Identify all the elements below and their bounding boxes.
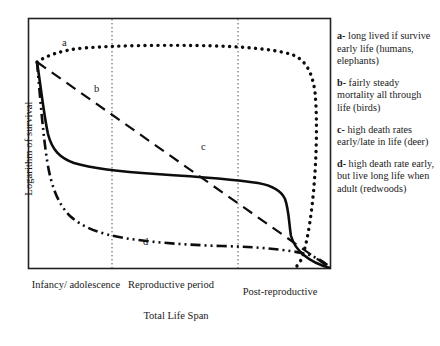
curve-label-a: a bbox=[62, 37, 67, 48]
curve-a bbox=[37, 45, 316, 268]
legend-key-b: b- bbox=[337, 77, 346, 88]
curve-c bbox=[37, 62, 330, 268]
curve-label-c: c bbox=[201, 141, 206, 152]
x-tick-label-infancy: Infancy/ adolescence bbox=[30, 279, 122, 292]
legend-entry-c: c- high death rates early/late in life (… bbox=[337, 124, 437, 149]
plot-frame bbox=[29, 19, 331, 269]
legend-panel: a- long lived if survive early life (hum… bbox=[337, 30, 437, 196]
legend-entry-d: d- high death rate early, but live long … bbox=[337, 158, 437, 196]
legend-entry-a: a- long lived if survive early life (hum… bbox=[337, 30, 437, 68]
legend-key-d: d- bbox=[337, 158, 346, 169]
curve-label-b: b bbox=[94, 83, 99, 94]
x-axis-title: Total Life Span bbox=[96, 310, 256, 321]
y-axis-title: Logarithm of survival bbox=[23, 59, 34, 239]
survivorship-curve-figure: Logarithm of survival Infancy/ adolescen… bbox=[0, 0, 440, 346]
x-tick-label-reproductive: Reproductive period bbox=[123, 279, 219, 292]
legend-text-b: fairly steady mortality all through life… bbox=[337, 77, 421, 113]
x-tick-label-post-reproductive: Post-reproductive bbox=[224, 286, 336, 299]
legend-text-d: high death rate early, but live long lif… bbox=[337, 158, 434, 194]
legend-text-a: long lived if survive early life (humans… bbox=[337, 30, 430, 66]
legend-key-a: a- bbox=[337, 30, 346, 41]
legend-entry-b: b- fairly steady mortality all through l… bbox=[337, 77, 437, 115]
legend-text-c: high death rates early/late in life (dee… bbox=[337, 124, 428, 148]
legend-key-c: c- bbox=[337, 124, 345, 135]
curve-label-d: d bbox=[143, 236, 148, 247]
